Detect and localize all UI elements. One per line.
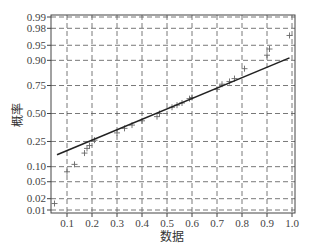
plot-frame	[51, 15, 295, 213]
x-tick-label: 0.9	[260, 217, 274, 229]
x-tick-label: 0.7	[210, 217, 224, 229]
y-tick-label: 0.05	[27, 175, 47, 187]
y-tick-label: 0.01	[27, 204, 46, 216]
data-points	[52, 32, 293, 206]
x-axis-label: 数据	[160, 229, 184, 244]
x-tick-label: 0.2	[85, 217, 99, 229]
x-tick-label: 0.3	[110, 217, 124, 229]
x-tick-label: 0.4	[135, 217, 149, 229]
y-tick-label: 0.02	[27, 192, 46, 204]
x-tick-label: 0.8	[235, 217, 249, 229]
y-axis-label: 概率	[10, 103, 25, 127]
x-tick-label: 0.5	[160, 217, 174, 229]
y-tick-label: 0.75	[27, 79, 47, 91]
y-tick-label: 0.90	[27, 54, 47, 66]
y-tick-label: 0.98	[27, 22, 47, 34]
x-tick-label: 1.0	[285, 217, 299, 229]
x-axis-ticks: 0.10.20.30.40.50.60.70.80.91.0	[60, 213, 299, 229]
y-tick-label: 0.25	[27, 135, 47, 147]
x-tick-label: 0.6	[185, 217, 199, 229]
x-tick-label: 0.1	[60, 217, 74, 229]
y-tick-label: 0.10	[27, 160, 47, 172]
y-tick-label: 0.99	[27, 11, 47, 23]
normal-probability-plot: 0.990.980.950.900.750.500.250.100.050.02…	[0, 0, 310, 251]
y-tick-label: 0.95	[27, 39, 47, 51]
grid-lines	[51, 15, 295, 213]
y-axis-ticks: 0.990.980.950.900.750.500.250.100.050.02…	[27, 11, 51, 216]
y-tick-label: 0.50	[27, 107, 47, 119]
